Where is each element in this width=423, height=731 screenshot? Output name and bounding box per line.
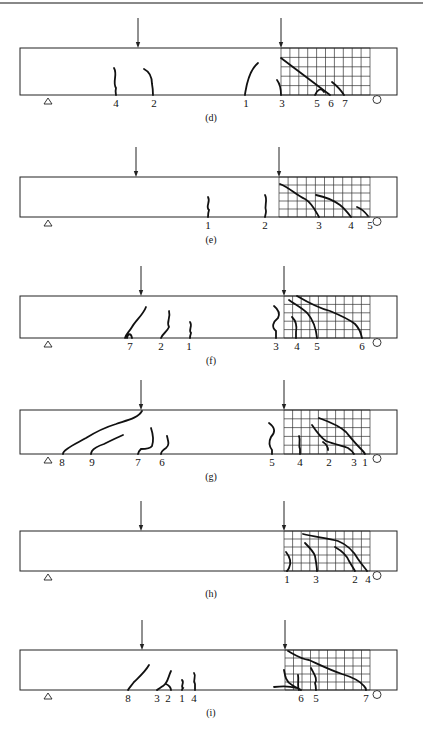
crack-line-1 [319,418,365,454]
pin-support-triangle-icon [44,457,52,463]
beam-outline [20,410,397,454]
crack-label-2: 2 [158,340,164,352]
panel-caption: (d) [205,112,217,124]
crack-label-3: 3 [279,97,285,109]
crack-line-5 [269,423,274,454]
panel-i: 83214657(i) [20,620,397,719]
crack-label-1: 1 [362,456,368,468]
crack-line-8 [128,665,149,690]
crack-line-6 [274,670,301,690]
crack-line-7 [288,651,366,690]
load-arrow-head-icon [282,290,286,296]
beam-outline [20,650,397,690]
crack-label-3: 3 [273,340,279,352]
crack-line-2 [265,195,266,217]
crack-label-2: 2 [151,97,157,109]
crack-label-6: 6 [359,340,365,352]
crack-label-6: 6 [298,692,304,704]
crack-line-5 [357,207,368,216]
roller-support-circle-icon [373,218,381,226]
crack-line-4 [194,673,195,690]
load-arrow-head-icon [134,171,138,177]
crack-line-9 [91,435,123,454]
crack-label-4: 4 [297,456,303,468]
beam-outline [20,48,397,95]
crack-label-4: 4 [294,340,300,352]
load-arrow-head-icon [140,644,144,650]
beam-outline [20,296,397,338]
crack-label-4: 4 [348,219,354,231]
load-arrow-head-icon [283,644,287,650]
crack-line-3 [280,184,319,217]
panel-d: 4213567(d) [20,18,397,124]
crack-label-2: 2 [262,219,268,231]
panel-e: 12345(e) [20,147,397,246]
load-arrow-head-icon [282,404,286,410]
crack-line-1 [208,197,209,217]
crack-line-4 [114,68,116,95]
load-arrow-head-icon [277,171,281,177]
crack-label-7: 7 [135,456,141,468]
crack-label-6: 6 [328,97,334,109]
crack-line-1 [190,322,191,338]
crack-label-2: 2 [326,456,332,468]
pin-support-triangle-icon [44,341,52,347]
beam-crack-diagram-figure: 4213567(d)12345(e)7213456(f)897654231(g)… [0,0,423,731]
roller-support-circle-icon [373,455,381,463]
panel-caption: (i) [206,707,215,719]
crack-label-3: 3 [313,573,319,585]
crack-line-1 [182,680,183,690]
crack-label-1: 1 [186,340,192,352]
panel-f: 7213456(f) [20,266,397,367]
panel-caption: (h) [205,588,217,600]
panel-caption: (e) [205,234,216,246]
crack-line-7 [125,307,146,338]
mesh-grid [281,48,370,95]
crack-label-1: 1 [243,97,249,109]
crack-label-5: 5 [314,340,320,352]
panel-caption: (f) [206,355,216,367]
load-arrow-head-icon [139,404,143,410]
crack-line-7 [138,428,153,454]
roller-support-circle-icon [373,691,381,699]
crack-label-9: 9 [89,456,95,468]
crack-line-8 [63,411,142,454]
crack-label-3: 3 [351,456,357,468]
crack-label-7: 7 [363,692,369,704]
crack-label-8: 8 [59,456,65,468]
load-arrow-head-icon [136,42,140,48]
roller-support-circle-icon [373,572,381,580]
pin-support-triangle-icon [44,693,52,699]
crack-line-7 [332,82,344,95]
crack-label-1: 1 [205,219,211,231]
mesh-grid [284,531,370,571]
crack-line-2 [166,684,171,690]
crack-label-2: 2 [352,573,358,585]
crack-label-3: 3 [316,219,322,231]
crack-line-5 [311,668,316,690]
load-arrow-head-icon [282,525,286,531]
crack-label-6: 6 [159,456,165,468]
roller-support-circle-icon [373,339,381,347]
crack-label-2: 2 [165,692,171,704]
crack-label-3: 3 [154,692,160,704]
panel-h: 1324(h) [20,501,397,600]
panel-g: 897654231(g) [20,380,397,483]
roller-support-circle-icon [373,96,381,104]
crack-line-2 [161,311,169,338]
crack-label-1: 1 [179,692,185,704]
crack-label-1: 1 [284,573,290,585]
crack-line-4 [299,436,300,454]
crack-label-5: 5 [314,97,320,109]
load-arrow-head-icon [139,290,143,296]
crack-label-8: 8 [125,692,131,704]
crack-line-3 [277,80,281,95]
load-arrow-head-icon [139,525,143,531]
crack-label-7: 7 [342,97,348,109]
crack-label-7: 7 [127,340,133,352]
panel-caption: (g) [205,471,217,483]
load-arrow-head-icon [279,42,283,48]
crack-line-3 [273,306,279,338]
crack-line-2 [144,69,153,95]
crack-line-1 [245,63,258,95]
